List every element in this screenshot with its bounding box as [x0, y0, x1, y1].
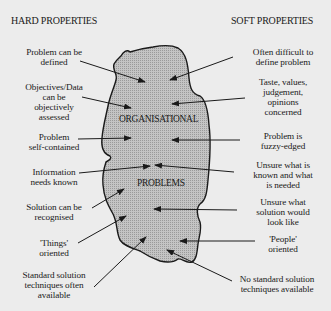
- hard-soft-problems-diagram: HARD PROPERTIES SOFT PROPERTIES ORGANISA…: [0, 0, 331, 311]
- soft-property-label: Taste, values, judgement, opinions conce…: [236, 77, 330, 117]
- hard-property-label: Problem can be defined: [8, 47, 100, 67]
- soft-property-label: 'People' oriented: [236, 234, 330, 254]
- soft-properties-heading: SOFT PROPERTIES: [231, 15, 313, 26]
- soft-property-label: Often difficult to define problem: [236, 47, 330, 67]
- hard-property-label: 'Things' oriented: [8, 238, 100, 258]
- soft-property-label: No standard solution techniques availabl…: [224, 274, 330, 294]
- soft-property-label: Problem is fuzzy-edged: [236, 131, 330, 151]
- organisational-problems-blob: [102, 46, 210, 263]
- arrow-soft-7: [167, 250, 232, 281]
- center-word-problems: PROBLEMS: [137, 178, 185, 188]
- arrow-hard-7: [94, 237, 146, 287]
- center-word-organisational: ORGANISATIONAL: [119, 114, 198, 124]
- hard-property-label: Information needs known: [8, 167, 100, 187]
- soft-property-label: Unsure what solution would look like: [236, 197, 330, 227]
- hard-properties-heading: HARD PROPERTIES: [11, 15, 97, 26]
- hard-property-label: Problem self-contained: [8, 132, 100, 152]
- hard-property-label: Standard solution techniques often avail…: [8, 270, 100, 300]
- soft-property-label: Unsure what is known and what is needed: [236, 160, 330, 190]
- hard-property-label: Objectives/Data can be objectively asses…: [8, 82, 100, 122]
- hard-property-label: Solution can be recognised: [8, 202, 100, 222]
